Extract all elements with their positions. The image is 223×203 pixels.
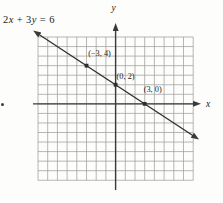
coordinate-plane-svg: (−3, 4)(0, 2)(3, 0)xy2x + 3y = 6 [0, 0, 223, 203]
data-point [85, 64, 89, 68]
graph-figure: (−3, 4)(0, 2)(3, 0)xy2x + 3y = 6 [0, 0, 223, 203]
stray-mark [1, 103, 4, 106]
equation-label: 2x + 3y = 6 [3, 14, 55, 25]
y-axis-label: y [110, 3, 116, 13]
data-point [114, 83, 118, 87]
x-axis-label: x [205, 99, 211, 109]
point-label: (−3, 4) [88, 49, 111, 58]
point-label: (0, 2) [117, 72, 135, 81]
point-label: (3, 0) [144, 85, 162, 94]
data-point [143, 102, 147, 106]
